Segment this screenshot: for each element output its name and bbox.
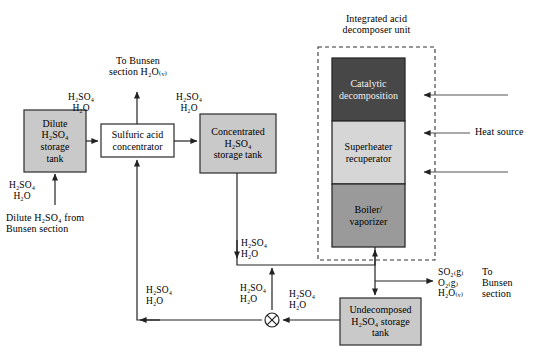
gas-product-destination-label: To Bunsen section bbox=[482, 266, 513, 300]
undecomposed-tank-box[interactable] bbox=[340, 298, 421, 345]
stream-label-undecomposed-out: H₂SO₄ H₂O bbox=[289, 289, 315, 310]
to-bunsen-top-label: To Bunsen section H₂O₍ᵥ₎ bbox=[93, 55, 183, 77]
process-flow-diagram: Dilute H₂SO₄ storage tank Sulfuric acid … bbox=[0, 0, 533, 354]
stream-label-concentrated-out: H₂SO₄ H₂O bbox=[176, 92, 202, 113]
stream-label-recycle-left: H₂SO₄ H₂O bbox=[146, 285, 172, 306]
decomposer-unit-title: Integrated acid decomposer unit bbox=[318, 13, 435, 35]
heat-source-label: Heat source bbox=[475, 126, 524, 137]
gas-product-species-label: SO₂₍g₎ O₂₍g₎ H₂O₍ᵥ₎ bbox=[438, 267, 463, 299]
diagram-vector-layer bbox=[0, 0, 533, 354]
boiler-vaporizer-box[interactable] bbox=[332, 184, 405, 247]
stream-label-dilute-out: H₂SO₄ H₂O bbox=[68, 92, 94, 113]
dilute-from-bunsen-label: Dilute H₂SO₄ from Bunsen section bbox=[6, 212, 84, 234]
stream-label-concentrated-down: H₂SO₄ H₂O bbox=[241, 238, 267, 259]
stream-label-mixer-up: H₂SO₄ H₂O bbox=[240, 283, 266, 304]
stream-label-feed-species: H₂SO₄ H₂O bbox=[9, 180, 35, 201]
superheater-recuperator-box[interactable] bbox=[332, 121, 405, 184]
concentrator-box[interactable] bbox=[101, 124, 174, 157]
concentrated-tank-box[interactable] bbox=[200, 114, 276, 173]
dilute-tank-box[interactable] bbox=[24, 110, 86, 172]
mixer-junction-icon bbox=[265, 313, 279, 327]
catalytic-decomposition-box[interactable] bbox=[332, 58, 405, 121]
